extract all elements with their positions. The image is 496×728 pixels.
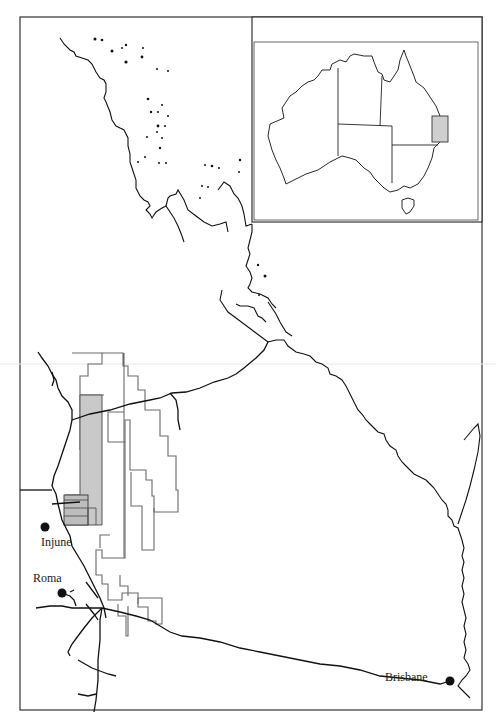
injune-marker xyxy=(41,523,50,532)
roma-label: Roma xyxy=(33,571,62,585)
shaded-study-area xyxy=(64,395,102,525)
injune-label: Injune xyxy=(41,535,72,549)
brisbane-marker xyxy=(446,677,455,686)
inset-study-area-highlight xyxy=(432,116,448,142)
roma-marker xyxy=(58,589,67,598)
brisbane-label: Brisbane xyxy=(385,670,428,684)
islands xyxy=(94,38,267,297)
map-figure: Injune Roma Brisbane xyxy=(0,0,496,728)
inset-australia-map xyxy=(252,17,482,222)
